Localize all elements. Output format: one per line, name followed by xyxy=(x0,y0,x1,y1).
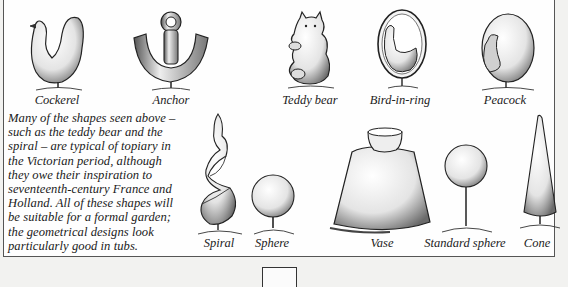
cockerel-topiary-icon xyxy=(22,8,92,93)
standard-sphere-topiary-icon xyxy=(436,142,496,238)
caption-line: seventeenth-century France and xyxy=(8,182,176,196)
caption-line: spiral – are typical of topiary in xyxy=(8,139,176,153)
caption-text: Many of the shapes seen above – such as … xyxy=(8,111,176,253)
vase-topiary-icon xyxy=(330,122,434,236)
sphere-topiary-icon xyxy=(250,170,296,238)
anchor-topiary-icon xyxy=(130,8,212,93)
caption-line: the geometrical designs look xyxy=(8,225,176,239)
caption-line: the Victorian period, although xyxy=(8,154,176,168)
bird-in-ring-topiary-icon xyxy=(372,6,432,92)
label-teddy-bear: Teddy bear xyxy=(282,93,337,108)
caption-line: Holland. All of these shapes will xyxy=(8,196,176,210)
caption-line: particularly good in tubs. xyxy=(8,239,176,253)
caption-line: they owe their inspiration to xyxy=(8,168,176,182)
label-anchor: Anchor xyxy=(153,93,190,108)
label-standard-sphere: Standard sphere xyxy=(424,236,505,251)
spiral-topiary-icon xyxy=(196,112,244,238)
label-bird-in-ring: Bird-in-ring xyxy=(370,93,431,108)
caption-line: be suitable for a formal garden; xyxy=(8,210,176,224)
teddy-bear-topiary-icon xyxy=(282,10,338,92)
label-sphere: Sphere xyxy=(255,236,289,251)
cone-topiary-icon xyxy=(520,114,560,238)
label-cone: Cone xyxy=(524,236,550,251)
label-peacock: Peacock xyxy=(484,93,526,108)
label-cockerel: Cockerel xyxy=(35,93,80,108)
peacock-topiary-icon xyxy=(476,12,536,94)
label-spiral: Spiral xyxy=(204,236,235,251)
caption-line: such as the teddy bear and the xyxy=(8,125,176,139)
caption-line: Many of the shapes seen above – xyxy=(8,111,176,125)
label-vase: Vase xyxy=(371,236,394,251)
page-number-box xyxy=(262,267,297,287)
